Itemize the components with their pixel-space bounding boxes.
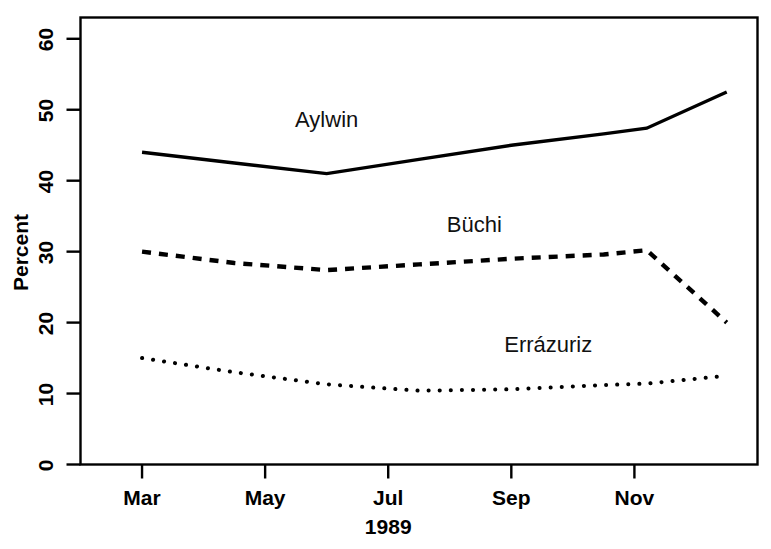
y-tick-label: 0: [34, 443, 55, 487]
y-axis-ticks: [67, 39, 81, 465]
y-tick-label: 50: [34, 88, 55, 132]
plot-frame: [81, 18, 758, 465]
x-tick-label: Mar: [92, 487, 192, 508]
y-tick-label: 60: [34, 17, 55, 61]
y-tick-label: 20: [34, 301, 55, 345]
series-line-errzuriz: [142, 358, 727, 391]
y-tick-label: 40: [34, 159, 55, 203]
y-tick-label: 30: [34, 230, 55, 274]
y-axis-title: Percent: [10, 182, 31, 322]
x-tick-label: Nov: [584, 487, 684, 508]
series-line-bchi: [142, 250, 727, 322]
series-label-aylwin: Aylwin: [207, 109, 447, 131]
x-axis-ticks: [142, 465, 634, 479]
plot-canvas: [0, 0, 771, 549]
x-axis-title: 1989: [288, 516, 488, 537]
x-tick-label: May: [215, 487, 315, 508]
x-tick-label: Sep: [461, 487, 561, 508]
y-tick-label: 10: [34, 372, 55, 416]
series-line-aylwin: [142, 92, 727, 174]
chart-figure: 0102030405060 MarMayJulSepNov Percent 19…: [0, 0, 771, 549]
x-tick-label: Jul: [338, 487, 438, 508]
series-label-bchi: Büchi: [354, 214, 594, 236]
series-label-errzuriz: Errázuriz: [428, 334, 668, 356]
